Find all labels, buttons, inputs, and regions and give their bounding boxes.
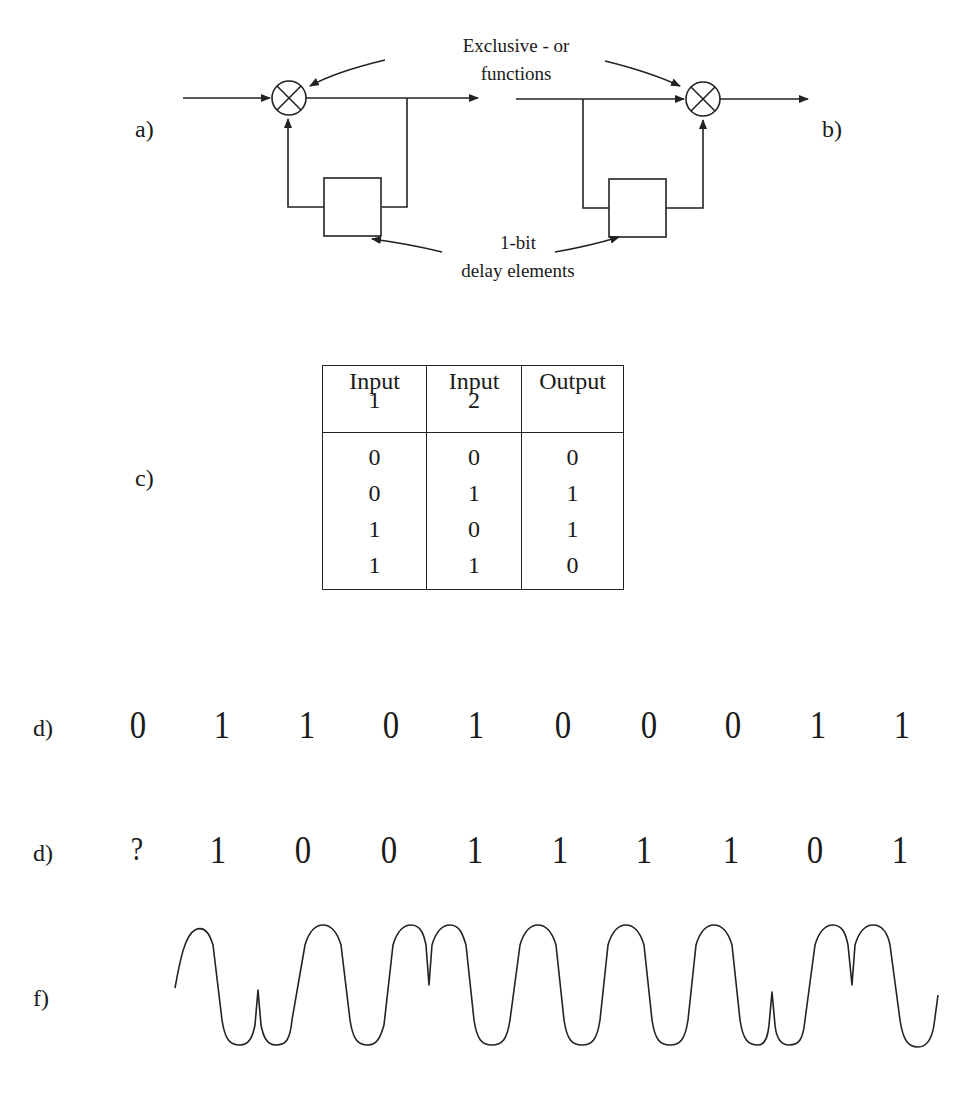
header-output: Output xyxy=(522,366,624,433)
table-cell: 0 xyxy=(427,433,522,476)
panel-label-c: c) xyxy=(135,465,154,492)
xor-truth-table: Input 1 Input 2 Output 0 0 0 0 1 1 1 0 1… xyxy=(322,365,624,590)
panel-label-a: a) xyxy=(135,116,154,142)
table-row: 0 1 1 xyxy=(323,475,624,511)
input-bit-sequence: d) 0 1 1 0 1 0 0 0 1 1 xyxy=(0,705,975,765)
bit: 0 xyxy=(555,705,571,745)
xor-delay-block-diagram: a) b) Exclusive - or functions 1-b xyxy=(0,0,975,300)
bit: 1 xyxy=(552,830,568,870)
table-row: 0 0 0 xyxy=(323,433,624,476)
table-cell: 0 xyxy=(427,511,522,547)
table-cell: 0 xyxy=(323,433,427,476)
delay-element-b xyxy=(609,179,666,237)
delay-element-a xyxy=(324,178,381,236)
header-text: 2 xyxy=(468,387,480,413)
bit: 0 xyxy=(295,830,311,870)
delay-annotation-line1: 1-bit xyxy=(500,232,537,253)
header-text: 1 xyxy=(369,387,381,413)
table-cell: 1 xyxy=(323,547,427,590)
bit: ? xyxy=(131,832,143,866)
bit: 1 xyxy=(210,830,226,870)
waveform-path xyxy=(175,925,938,1047)
bit: 0 xyxy=(641,705,657,745)
phase-modulated-waveform xyxy=(0,900,975,1094)
header-text: Output xyxy=(539,368,606,394)
table-cell: 1 xyxy=(427,547,522,590)
delay-annotation-line2: delay elements xyxy=(461,260,574,281)
xor-annotation-line2: functions xyxy=(481,63,552,84)
xor-gate-icon xyxy=(686,82,720,116)
bit: 1 xyxy=(467,830,483,870)
bit: 1 xyxy=(723,830,739,870)
table-cell: 1 xyxy=(522,511,624,547)
bit: 1 xyxy=(468,705,484,745)
bit: 1 xyxy=(214,705,230,745)
xor-gate-icon xyxy=(272,81,306,115)
table-cell: 1 xyxy=(522,475,624,511)
panel-label-d1: d) xyxy=(33,716,53,740)
bit: 1 xyxy=(299,705,315,745)
decoder-circuit xyxy=(516,82,808,237)
bit: 0 xyxy=(383,705,399,745)
xor-annotation-line1: Exclusive - or xyxy=(463,35,570,56)
header-input-2: Input 2 xyxy=(427,366,522,433)
panel-label-d2: d) xyxy=(33,841,53,865)
table-cell: 0 xyxy=(323,475,427,511)
table-cell: 0 xyxy=(522,433,624,476)
truth-table-header-row: Input 1 Input 2 Output xyxy=(323,366,624,433)
bit: 0 xyxy=(807,830,823,870)
table-cell: 1 xyxy=(323,511,427,547)
bit: 1 xyxy=(810,705,826,745)
panel-label-b: b) xyxy=(822,116,842,142)
header-input-1: Input 1 xyxy=(323,366,427,433)
bit: 0 xyxy=(381,830,397,870)
bit: 0 xyxy=(725,705,741,745)
encoded-bit-sequence: d) ? 1 0 0 1 1 1 1 0 1 xyxy=(0,830,975,890)
annotation-arrows xyxy=(310,60,680,252)
bit: 1 xyxy=(636,830,652,870)
table-cell: 0 xyxy=(522,547,624,590)
table-row: 1 1 0 xyxy=(323,547,624,590)
bit: 1 xyxy=(894,705,910,745)
table-cell: 1 xyxy=(427,475,522,511)
bit: 0 xyxy=(130,705,146,745)
table-row: 1 0 1 xyxy=(323,511,624,547)
encoder-circuit xyxy=(183,81,478,236)
bit: 1 xyxy=(892,830,908,870)
